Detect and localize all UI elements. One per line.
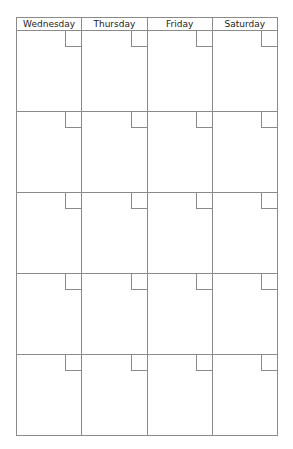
date-box — [131, 355, 147, 371]
date-box — [65, 112, 81, 128]
date-box — [196, 274, 212, 290]
day-cell[interactable] — [82, 274, 147, 354]
date-box — [196, 112, 212, 128]
date-box — [65, 355, 81, 371]
day-cell[interactable] — [213, 193, 277, 273]
date-box — [196, 193, 212, 209]
day-cell[interactable] — [17, 355, 82, 435]
week-row — [17, 31, 277, 112]
date-box — [131, 31, 147, 47]
week-row — [17, 274, 277, 355]
day-cell[interactable] — [17, 31, 82, 111]
date-box — [131, 274, 147, 290]
day-cell[interactable] — [17, 193, 82, 273]
day-cell[interactable] — [213, 112, 277, 192]
day-cell[interactable] — [148, 193, 213, 273]
day-cell[interactable] — [17, 112, 82, 192]
date-box — [65, 274, 81, 290]
calendar-grid: Wednesday Thursday Friday Saturday — [16, 17, 278, 436]
day-cell[interactable] — [82, 112, 147, 192]
date-box — [65, 31, 81, 47]
week-row — [17, 355, 277, 435]
date-box — [131, 193, 147, 209]
day-cell[interactable] — [213, 31, 277, 111]
day-header-friday: Friday — [148, 18, 213, 30]
date-box — [131, 112, 147, 128]
day-cell[interactable] — [17, 274, 82, 354]
day-cell[interactable] — [148, 31, 213, 111]
week-row — [17, 112, 277, 193]
day-header-saturday: Saturday — [213, 18, 277, 30]
weekday-header: Wednesday Thursday Friday Saturday — [17, 18, 277, 31]
day-cell[interactable] — [148, 112, 213, 192]
date-box — [196, 31, 212, 47]
day-cell[interactable] — [213, 355, 277, 435]
date-box — [261, 355, 277, 371]
date-box — [261, 274, 277, 290]
date-box — [65, 193, 81, 209]
date-box — [196, 355, 212, 371]
day-cell[interactable] — [82, 355, 147, 435]
day-header-wednesday: Wednesday — [17, 18, 82, 30]
day-cell[interactable] — [148, 274, 213, 354]
day-cell[interactable] — [82, 31, 147, 111]
date-box — [261, 31, 277, 47]
day-cell[interactable] — [148, 355, 213, 435]
day-cell[interactable] — [213, 274, 277, 354]
week-row — [17, 193, 277, 274]
day-cell[interactable] — [82, 193, 147, 273]
date-box — [261, 112, 277, 128]
day-header-thursday: Thursday — [82, 18, 147, 30]
date-box — [261, 193, 277, 209]
